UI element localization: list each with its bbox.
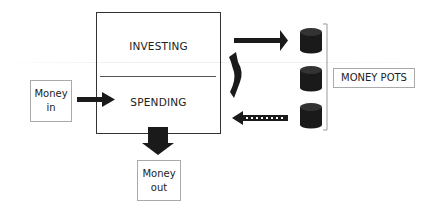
invest-to-pots-arrow-icon (234, 30, 288, 51)
curved-arrow-icon (229, 52, 242, 98)
pots-bracket (323, 24, 327, 130)
diagram-arrows (0, 0, 441, 203)
money-pot-icon (300, 28, 322, 54)
money-pot-icon (300, 103, 322, 129)
money-in-arrow-icon (77, 92, 115, 107)
money-out-arrow-icon (142, 127, 174, 155)
pots-to-spending-dotted-arrow-icon (232, 111, 288, 125)
money-pot-icon (300, 66, 322, 92)
